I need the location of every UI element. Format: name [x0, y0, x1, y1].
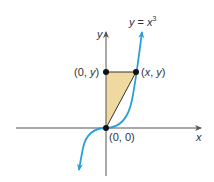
- cubic-graph: y = x3 y x (0, y) (x, y) (0, 0): [0, 0, 214, 182]
- curve-point-label: (x, y): [141, 66, 165, 78]
- y-axis-point: [103, 69, 109, 75]
- curve-point: [133, 69, 139, 75]
- y-axis-label: y: [96, 28, 104, 40]
- curve-equation-label: y = x3: [128, 15, 157, 28]
- y-axis-point-label: (0, y): [74, 66, 99, 78]
- cubic-curve-lower: [79, 128, 106, 170]
- x-axis-label: x: [195, 131, 202, 143]
- origin-label: (0, 0): [109, 131, 135, 143]
